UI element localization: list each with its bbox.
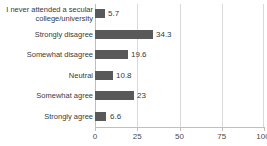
- value-label: 23: [137, 91, 146, 100]
- category-label: I never attended a secular college/unive…: [3, 5, 93, 23]
- x-axis-tick: [264, 127, 265, 131]
- bar-row: Strongly agree 6.6: [0, 107, 267, 128]
- x-axis-tick: [137, 127, 138, 131]
- bar-segment: [95, 71, 113, 80]
- bar-row: I never attended a secular college/unive…: [0, 4, 267, 25]
- bar-row: Somewhat agree 23: [0, 86, 267, 107]
- category-label: Neutral: [3, 71, 93, 80]
- category-label: Strongly agree: [3, 112, 93, 121]
- bar-chart: I never attended a secular college/unive…: [0, 0, 267, 146]
- x-axis-tick-label: 25: [133, 132, 142, 141]
- bar-row: Strongly disagree 34.3: [0, 25, 267, 46]
- value-label: 6.6: [110, 112, 121, 121]
- value-label: 34.3: [156, 30, 172, 39]
- value-label: 10.8: [116, 71, 132, 80]
- bar-segment: [95, 91, 134, 100]
- x-axis-tick-label: 75: [217, 132, 226, 141]
- x-axis-tick-label: 0: [93, 132, 97, 141]
- x-axis-tick: [180, 127, 181, 131]
- x-axis-tick: [222, 127, 223, 131]
- bar-segment: [95, 9, 105, 18]
- category-label: Somewhat agree: [3, 91, 93, 100]
- bar-row: Somewhat disagree 19.6: [0, 45, 267, 66]
- x-axis-tick-label: 50: [175, 132, 184, 141]
- bar-segment: [95, 50, 128, 59]
- category-label: Somewhat disagree: [3, 50, 93, 59]
- category-label: Strongly disagree: [3, 30, 93, 39]
- bar-row: Neutral 10.8: [0, 66, 267, 87]
- value-label: 5.7: [108, 9, 119, 18]
- value-label: 19.6: [131, 50, 147, 59]
- bar-segment: [95, 30, 153, 39]
- x-axis-tick-label: 100: [256, 132, 267, 141]
- bar-segment: [95, 112, 106, 121]
- x-axis-tick: [95, 127, 96, 131]
